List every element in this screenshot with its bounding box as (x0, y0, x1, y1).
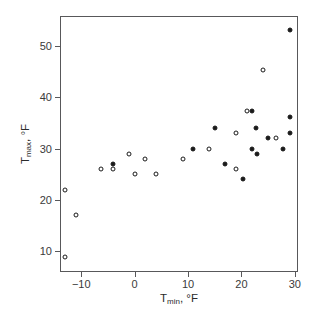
y-axis-tick (55, 46, 61, 47)
data-point-open (180, 156, 185, 161)
x-axis-tick-label: 10 (182, 278, 194, 290)
x-axis-tick-label: 30 (289, 278, 301, 290)
x-axis-tick (295, 271, 296, 277)
data-point-filled (212, 126, 217, 131)
data-point-filled (240, 177, 245, 182)
y-axis-tick-label: 30 (40, 143, 52, 155)
data-point-filled (287, 28, 292, 33)
data-point-filled (111, 162, 116, 167)
data-point-filled (191, 146, 196, 151)
y-axis-title: Tmax, °F (19, 124, 33, 164)
data-point-filled (250, 146, 255, 151)
x-axis-tick (241, 271, 242, 277)
data-point-filled (254, 126, 259, 131)
y-axis-tick-label: 50 (40, 40, 52, 52)
data-point-open (63, 187, 68, 192)
x-axis-title-subscript: min (167, 297, 180, 306)
data-point-filled (287, 131, 292, 136)
data-point-filled (281, 146, 286, 151)
data-point-open (260, 68, 265, 73)
y-axis-title-subscript: max (24, 142, 33, 157)
data-point-open (63, 254, 68, 259)
data-point-filled (287, 114, 292, 119)
y-axis-tick (55, 200, 61, 201)
data-point-open (234, 167, 239, 172)
y-axis-tick-label: 10 (40, 245, 52, 257)
y-axis-title-base: T (19, 157, 31, 164)
data-point-filled (250, 109, 255, 114)
y-axis-tick (55, 149, 61, 150)
data-points-layer (61, 17, 297, 271)
data-point-open (132, 172, 137, 177)
x-axis-tick (188, 271, 189, 277)
y-axis-tick-label: 40 (40, 91, 52, 103)
data-point-open (99, 167, 104, 172)
data-point-open (73, 213, 78, 218)
data-point-open (127, 151, 132, 156)
data-point-open (143, 156, 148, 161)
x-axis-tick-label: 20 (235, 278, 247, 290)
x-axis-title-base: T (160, 292, 167, 304)
x-axis-tick (81, 271, 82, 277)
data-point-filled (255, 151, 260, 156)
y-axis-tick-label: 20 (40, 194, 52, 206)
y-axis-title-unit: , °F (19, 124, 31, 142)
y-axis-tick (55, 97, 61, 98)
plot-area: 1020304050−100102030 (60, 16, 298, 272)
x-axis-title-unit: , °F (180, 292, 198, 304)
data-point-open (154, 172, 159, 177)
data-point-filled (266, 136, 271, 141)
x-axis-title: Tmin, °F (60, 292, 298, 306)
scatter-plot-figure: 1020304050−100102030 Tmin, °F Tmax, °F (0, 0, 319, 319)
data-point-open (207, 146, 212, 151)
data-point-filled (223, 162, 228, 167)
data-point-open (273, 136, 278, 141)
data-point-open (244, 109, 249, 114)
y-axis-tick (55, 251, 61, 252)
x-axis-tick (135, 271, 136, 277)
x-axis-tick-label: 0 (132, 278, 138, 290)
data-point-open (234, 131, 239, 136)
data-point-open (111, 167, 116, 172)
x-axis-tick-label: −10 (72, 278, 91, 290)
